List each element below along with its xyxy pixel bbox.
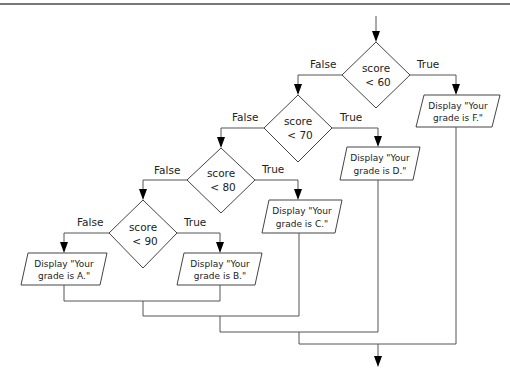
output-grade-d: Display "Your grade is D.": [340, 147, 420, 180]
connector-d2-true: [332, 128, 382, 147]
connector-d3-false: [139, 180, 187, 200]
output-grade-f: Display "Your grade is F.": [416, 95, 500, 127]
decision-text-line1: score: [284, 115, 312, 127]
output-text-line2: grade is D.": [353, 166, 406, 176]
entry-arrow: [372, 16, 380, 42]
decision-score-lt-90: score < 90: [109, 200, 177, 268]
true-label: True: [416, 58, 439, 70]
decision-score-lt-60: score < 60: [342, 42, 410, 108]
false-label: False: [310, 58, 336, 70]
exit-arrow: [374, 344, 382, 367]
true-label: True: [339, 111, 362, 123]
output-text-line1: Display "Your: [350, 153, 410, 163]
output-text-line2: grade is F.": [433, 113, 483, 123]
connector-d4-false: [60, 233, 109, 253]
decision-text-line1: score: [129, 221, 157, 233]
decision-text-line2: < 80: [210, 181, 236, 193]
true-label: True: [261, 163, 284, 175]
decision-text-line2: < 90: [132, 235, 158, 247]
output-text-line1: Display "Your: [34, 259, 94, 269]
decision-text-line1: score: [362, 62, 390, 74]
output-text-line2: grade is A.": [38, 271, 90, 281]
decision-text-line1: score: [207, 167, 235, 179]
output-text-line2: grade is B.": [194, 271, 246, 281]
connector-d1-true: [410, 75, 460, 95]
false-label: False: [77, 216, 103, 228]
connector-d2-false: [217, 128, 264, 148]
connector-d4-true: [177, 233, 224, 253]
false-label: False: [154, 164, 180, 176]
flowchart-canvas: score < 60 True False Display "Your grad…: [0, 0, 510, 380]
output-text-line1: Display "Your: [190, 259, 250, 269]
decision-score-lt-80: score < 80: [187, 148, 255, 213]
output-grade-a: Display "Your grade is A.": [21, 253, 107, 285]
connector-d3-true: [255, 180, 302, 200]
false-label: False: [232, 111, 258, 123]
decision-text-line2: < 70: [287, 129, 313, 141]
output-text-line2: grade is C.": [276, 219, 328, 229]
decision-text-line2: < 60: [365, 76, 391, 88]
output-text-line1: Display "Your: [272, 206, 332, 216]
output-grade-c: Display "Your grade is C.": [262, 200, 342, 233]
decision-score-lt-70: score < 70: [264, 95, 332, 162]
true-label: True: [183, 216, 206, 228]
connector-d1-false: [294, 75, 342, 95]
output-grade-b: Display "Your grade is B.": [177, 253, 262, 285]
output-text-line1: Display "Your: [428, 101, 488, 111]
